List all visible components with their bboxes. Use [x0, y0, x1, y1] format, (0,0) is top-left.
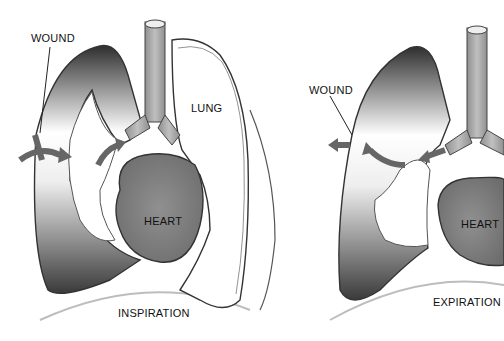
heart: [116, 154, 203, 262]
diagram-artwork: [0, 0, 504, 341]
wound-label: WOUND: [31, 32, 75, 44]
inspiration-caption: INSPIRATION: [118, 307, 190, 319]
inspiration-panel: [20, 20, 250, 320]
heart-label: HEART: [144, 215, 182, 227]
left-pleural-cavity: [339, 47, 450, 300]
expiration-panel: [250, 26, 504, 320]
wound-pointer: [330, 96, 352, 135]
left-bronchus: [445, 130, 472, 155]
lung-label: LUNG: [191, 102, 222, 114]
wound-label: WOUND: [309, 84, 353, 96]
expiration-caption: EXPIRATION: [433, 296, 501, 308]
heart-label: HEART: [461, 218, 499, 230]
trachea: [467, 28, 487, 138]
trachea: [145, 22, 165, 122]
pneumothorax-diagram: WOUND LUNG HEART INSPIRATION WOUND HEART…: [0, 0, 504, 341]
